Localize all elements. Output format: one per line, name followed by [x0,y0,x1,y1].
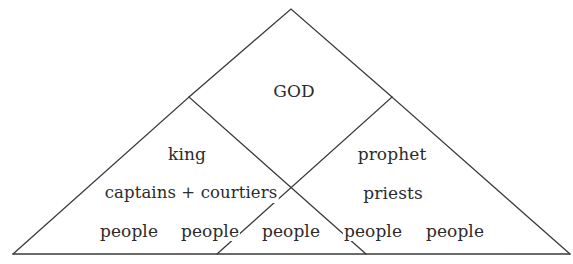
label-people-5: people [426,221,484,241]
label-people-1: people [100,221,158,241]
label-god: GOD [273,81,314,101]
label-priests: priests [363,183,423,203]
label-people-3: people [261,221,321,241]
label-prophet: prophet [358,144,427,164]
label-king: king [168,144,206,164]
label-people-4: people [343,221,403,241]
label-captains-courtiers: captains + courtiers [104,183,279,203]
label-people-2: people [180,221,240,241]
